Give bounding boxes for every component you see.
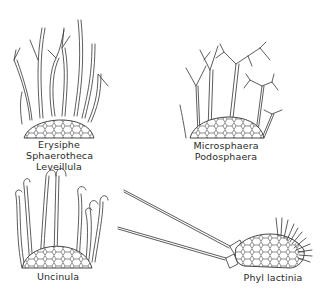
uncinula-ascocarp-drawing [16, 169, 108, 269]
label-erysiphe-group: Erysiphe Sphaerotheca Leveillula [26, 139, 92, 172]
genus-label-podosphaera: Podosphaera [188, 151, 264, 162]
erysiphe-ascocarp-drawing [14, 20, 108, 138]
figure-canvas: Erysiphe Sphaerotheca Leveillula Microsp… [0, 0, 332, 297]
genus-label-sphaerotheca: Sphaerotheca [26, 150, 92, 161]
genus-label-leveillula: Leveillula [26, 161, 92, 172]
genus-label-uncinula: Uncinula [30, 271, 86, 282]
genus-label-erysiphe: Erysiphe [26, 139, 92, 150]
microsphaera-ascocarp-drawing [180, 42, 282, 138]
label-microsphaera-group: Microsphaera Podosphaera [188, 140, 264, 162]
label-uncinula-group: Uncinula [30, 271, 86, 282]
genus-label-phyllactinia: Phyl lactinia [238, 272, 308, 283]
genus-label-microsphaera: Microsphaera [188, 140, 264, 151]
phyllactinia-ascocarp-drawing [118, 190, 312, 268]
label-phyllactinia-group: Phyl lactinia [238, 272, 308, 283]
